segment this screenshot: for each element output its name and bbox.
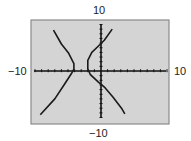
graph-plot bbox=[0, 0, 191, 141]
